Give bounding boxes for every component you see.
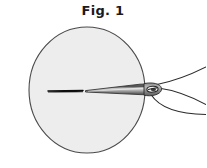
illustration-canvas (0, 0, 206, 168)
existing-stitch-line (48, 90, 83, 92)
thread-upper-strand (157, 67, 206, 85)
figure-illustration: Fig. 1 (0, 0, 206, 168)
thread-lower-strand (151, 95, 206, 115)
thread-loop-strand (159, 88, 207, 105)
